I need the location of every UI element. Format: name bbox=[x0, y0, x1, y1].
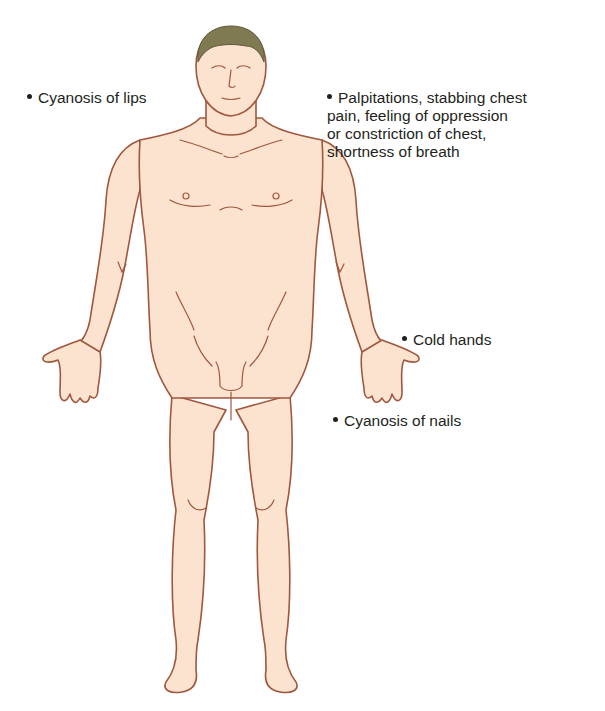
right-hand bbox=[43, 340, 101, 402]
left-hand bbox=[361, 340, 419, 402]
bullet-icon bbox=[402, 336, 407, 341]
right-leg bbox=[165, 395, 226, 693]
label-cold-hands: Cold hands bbox=[402, 331, 491, 349]
label-line: pain, feeling of oppression bbox=[327, 107, 527, 125]
left-arm bbox=[322, 140, 382, 352]
torso bbox=[139, 118, 323, 398]
bullet-icon bbox=[333, 417, 338, 422]
label-text: Cyanosis of nails bbox=[344, 412, 461, 429]
right-arm bbox=[80, 140, 140, 352]
label-line: shortness of breath bbox=[327, 143, 527, 161]
bullet-icon bbox=[327, 94, 332, 99]
label-cyanosis-of-lips: Cyanosis of lips bbox=[27, 89, 147, 107]
label-chest-symptoms: Palpitations, stabbing chest pain, feeli… bbox=[327, 89, 527, 161]
left-leg bbox=[236, 395, 297, 693]
label-text: Palpitations, stabbing chest bbox=[338, 89, 527, 106]
label-line: Palpitations, stabbing chest bbox=[327, 89, 527, 107]
label-text: Cyanosis of lips bbox=[38, 89, 147, 106]
label-line: or constriction of chest, bbox=[327, 125, 527, 143]
bullet-icon bbox=[27, 94, 32, 99]
label-text: Cold hands bbox=[413, 331, 491, 348]
label-cyanosis-of-nails: Cyanosis of nails bbox=[333, 412, 461, 430]
